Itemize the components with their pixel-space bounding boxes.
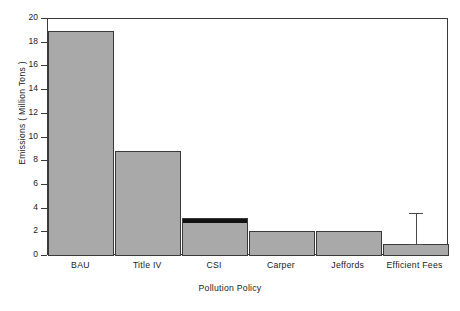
x-axis-tick-label: Efficient Fees [381,260,448,270]
x-axis-title: Pollution Policy [0,283,460,293]
x-axis-tick-label: Carper [248,260,315,270]
bar-jeffords [316,231,382,256]
y-axis-tick [41,255,47,256]
plot-area [47,18,448,255]
y-axis-tick-label: 4 [0,202,38,212]
y-axis-tick-label: 10 [0,131,38,141]
bar-title-iv [115,151,181,256]
x-axis-tick-label: Jeffords [314,260,381,270]
error-bar-line [416,213,417,244]
bar-csi [182,218,248,256]
y-axis-tick-label: 14 [0,83,38,93]
bar-carper [249,231,315,256]
y-axis-tick-label: 2 [0,225,38,235]
x-axis-tick-label: Title IV [114,260,181,270]
y-axis-tick-label: 20 [0,12,38,22]
error-bar-upper-cap [409,213,423,214]
y-axis-tick-label: 16 [0,59,38,69]
bar-dark-segment [183,219,247,223]
y-axis-tick-label: 8 [0,154,38,164]
y-axis-tick-label: 6 [0,178,38,188]
y-axis-tick-label: 12 [0,107,38,117]
error-bar-lower-cap [409,244,423,245]
bar-bau [48,31,114,256]
bar-chart: Emissions ( Million Tons ) 0246810121416… [0,0,460,311]
y-axis-tick-label: 18 [0,36,38,46]
bar-efficient-fees [383,244,449,256]
x-axis-tick-label: CSI [181,260,248,270]
y-axis-tick-label: 0 [0,249,38,259]
x-axis-tick-label: BAU [47,260,114,270]
